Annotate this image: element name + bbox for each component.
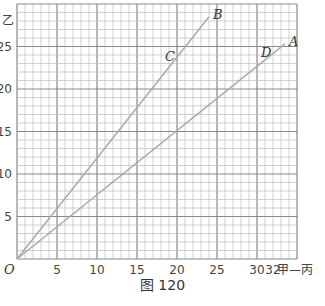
y-axis-label: 乙: [2, 14, 14, 28]
figure-caption: 图 120: [0, 274, 325, 294]
y-tick-label: 10: [0, 167, 12, 181]
point-label: D: [260, 45, 272, 60]
point-label: B: [212, 7, 223, 22]
y-tick-label: 25: [0, 40, 12, 54]
point-label: C: [165, 49, 175, 64]
line-chart: 5101520253032510152025O甲—丙乙CBDA: [0, 0, 325, 306]
y-tick-label: 15: [0, 125, 12, 139]
y-tick-label: 5: [4, 210, 12, 224]
chart-figure: 5101520253032510152025O甲—丙乙CBDA 图 120: [0, 0, 325, 306]
y-tick-label: 20: [0, 82, 12, 96]
point-label: A: [288, 34, 298, 49]
